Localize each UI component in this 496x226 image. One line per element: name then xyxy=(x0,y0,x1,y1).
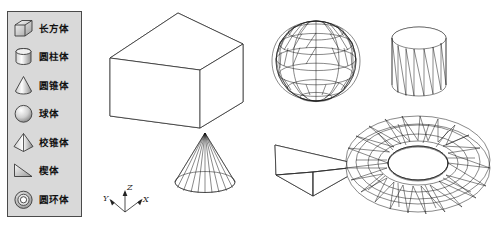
legend-label-cylinder: 圆柱体 xyxy=(39,52,69,62)
legend-label-pyramid: 校锥体 xyxy=(39,138,69,148)
3d-model-viewport[interactable]: Z Y X xyxy=(88,0,496,226)
wedge-icon xyxy=(11,159,36,183)
legend-label-sphere: 球体 xyxy=(39,109,59,119)
cone-icon xyxy=(11,74,36,98)
shape-cylinder[interactable] xyxy=(392,27,446,96)
shape-cuboid[interactable] xyxy=(110,13,243,128)
legend-item-sphere[interactable]: 球体 xyxy=(11,101,79,128)
legend-item-pyramid[interactable]: 校锥体 xyxy=(11,129,79,156)
legend-item-cone[interactable]: 圆锥体 xyxy=(11,72,79,99)
shape-cone[interactable] xyxy=(175,133,235,193)
sphere-icon xyxy=(11,102,36,126)
legend-label-torus: 圆环体 xyxy=(39,195,69,205)
pyramid-icon xyxy=(11,131,36,155)
legend-item-wedge[interactable]: 楔体 xyxy=(11,158,79,185)
shape-torus[interactable] xyxy=(346,116,490,214)
axis-label-x: X xyxy=(142,195,149,204)
page-root: 长方体 圆柱体 xyxy=(0,0,496,226)
axis-label-y: Y xyxy=(103,194,109,203)
legend-label-wedge: 楔体 xyxy=(39,166,59,176)
axis-label-z: Z xyxy=(126,183,133,192)
legend-label-cone: 圆锥体 xyxy=(39,81,69,91)
legend-item-cylinder[interactable]: 圆柱体 xyxy=(11,44,79,71)
legend-item-cuboid[interactable]: 长方体 xyxy=(11,15,79,42)
cylinder-icon xyxy=(11,45,36,69)
torus-icon xyxy=(11,188,36,212)
cuboid-icon xyxy=(11,17,36,41)
legend-label-cuboid: 长方体 xyxy=(39,24,69,34)
ucs-axis-indicator[interactable]: Z Y X xyxy=(103,183,149,212)
viewport-canvas: Z Y X xyxy=(88,0,496,226)
legend-item-torus[interactable]: 圆环体 xyxy=(11,186,79,213)
solid-primitives-palette[interactable]: 长方体 圆柱体 xyxy=(7,11,82,217)
shape-sphere[interactable] xyxy=(272,21,360,102)
